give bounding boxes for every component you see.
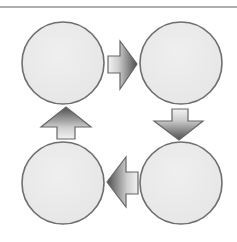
cycle-node-bottom-left [22,142,104,224]
arrow-down-icon [154,109,203,140]
arrow-left-icon [107,157,138,207]
cycle-node-top-right [140,22,222,104]
cycle-diagram [0,0,237,242]
arrow-up-icon [41,107,91,139]
cycle-node-top-left [22,22,104,104]
arrow-right-icon [108,41,137,89]
cycle-node-bottom-right [140,142,222,224]
